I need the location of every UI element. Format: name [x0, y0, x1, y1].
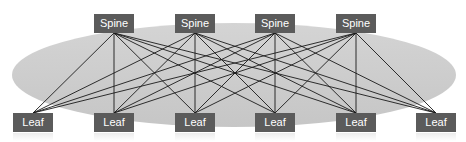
- spine-node-2: Spine: [175, 14, 215, 33]
- leaf-reflection: [255, 133, 295, 141]
- leaf-reflection: [175, 133, 215, 141]
- leaf-reflection: [94, 133, 134, 141]
- leaf-node-3: Leaf: [175, 113, 215, 132]
- leaf-node-6: Leaf: [416, 113, 456, 132]
- leaf-node-2: Leaf: [94, 113, 134, 132]
- leaf-reflection: [13, 133, 53, 141]
- spine-node-3: Spine: [255, 14, 295, 33]
- leaf-node-1: Leaf: [13, 113, 53, 132]
- leaf-node-4: Leaf: [255, 113, 295, 132]
- spine-node-1: Spine: [94, 14, 134, 33]
- leaf-reflection: [416, 133, 456, 141]
- leaf-node-5: Leaf: [336, 113, 376, 132]
- diagram-canvas: [0, 0, 466, 142]
- spine-node-4: Spine: [336, 14, 376, 33]
- fabric-ellipse: [12, 23, 456, 127]
- leaf-reflection: [336, 133, 376, 141]
- spine-leaf-diagram: SpineSpineSpineSpineLeafLeafLeafLeafLeaf…: [0, 0, 466, 142]
